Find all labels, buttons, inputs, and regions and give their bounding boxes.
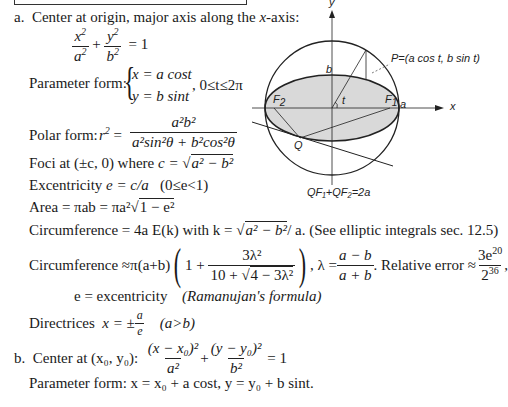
diagram-caption: QF₁+QF₂=2a [307,186,370,198]
F2-label: F2 [273,93,285,105]
Q-label: Q [294,139,303,151]
y-arrow-icon [329,10,335,18]
F1-label: F1 [385,93,397,105]
P-label: P=(a cos t, b sin t) [391,52,480,64]
a-label: a [400,98,406,110]
y-axis-label: y [329,0,335,8]
x-axis-label: x [450,100,456,112]
b-label: b [326,63,332,75]
x-arrow-icon [435,105,444,111]
t-label: t [342,94,345,106]
